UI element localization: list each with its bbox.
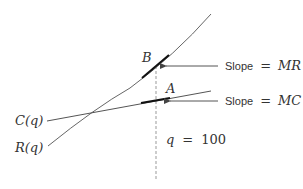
- point-b-label: B: [141, 50, 152, 65]
- diagram-canvas: B A C(q) R(q) Slope = MR Slope = MC q = …: [0, 0, 303, 189]
- cost-curve: [47, 91, 211, 121]
- slope-mr-label: Slope = MR: [225, 56, 301, 73]
- revenue-curve: [48, 14, 211, 146]
- cost-curve-label: C(q): [15, 113, 43, 128]
- slope-mc-label: Slope = MC: [225, 91, 301, 108]
- q-equals-100-label: q = 100: [166, 130, 226, 147]
- point-a-label: A: [165, 81, 175, 96]
- revenue-curve-label: R(q): [14, 140, 43, 155]
